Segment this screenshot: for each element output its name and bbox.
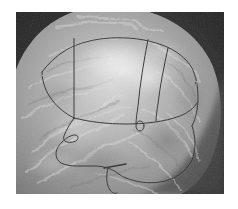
annotated-scan-image bbox=[16, 12, 224, 194]
film-grain-overlay bbox=[16, 12, 224, 194]
screenshot-root bbox=[0, 0, 238, 209]
scan-canvas bbox=[16, 12, 224, 194]
